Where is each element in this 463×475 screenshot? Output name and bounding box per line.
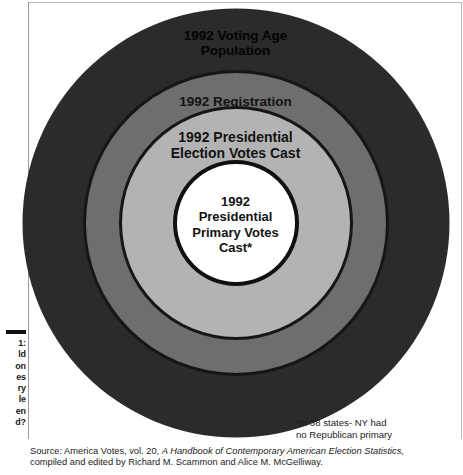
frame-rule-right <box>461 2 462 439</box>
ring-label-presidential-election-votes-cast-line-1: 1992 Presidential <box>178 129 292 145</box>
source-title: A Handbook of Contemporary American Elec… <box>162 446 404 456</box>
footnote: *in 38 states- NY had no Republican prim… <box>296 417 456 440</box>
source-prefix: Source: America Votes, vol. 20, <box>30 446 162 456</box>
ring-label-presidential-primary-votes-cast-line-4: Cast* <box>219 240 252 255</box>
footnote-line-2: no Republican primary <box>296 429 456 441</box>
ring-label-presidential-election-votes-cast-line-2: Election Votes Cast <box>171 145 301 161</box>
ring-label-voting-age-population-line-1: 1992 Voting Age <box>184 28 288 43</box>
figure-page: 1: ld on es ry le en d? 1992 Voting Age … <box>0 0 463 475</box>
ring-label-presidential-election-votes-cast: 1992 Presidential Election Votes Cast <box>22 130 449 162</box>
ring-label-presidential-primary-votes-cast-line-3: Primary Votes <box>192 225 278 240</box>
source-line-2: compiled and edited by Richard M. Scammo… <box>30 457 460 468</box>
ring-label-voting-age-population-line-2: Population <box>201 43 271 58</box>
ring-label-registration: 1992 Registration <box>22 94 449 109</box>
ring-label-presidential-primary-votes-cast-line-1: 1992 <box>221 194 250 209</box>
ring-label-presidential-primary-votes-cast: 1992 Presidential Primary Votes Cast* <box>22 194 449 255</box>
source-line-1: Source: America Votes, vol. 20, A Handbo… <box>30 446 460 457</box>
ring-label-voting-age-population: 1992 Voting Age Population <box>22 28 449 59</box>
ring-label-presidential-primary-votes-cast-line-2: Presidential <box>199 209 273 224</box>
source-attribution: Source: America Votes, vol. 20, A Handbo… <box>30 446 460 469</box>
ring-label-registration-line-1: 1992 Registration <box>179 94 292 109</box>
frame-rule-top <box>28 2 462 3</box>
footnote-line-1: *in 38 states- NY had <box>296 417 456 429</box>
concentric-circle-diagram: 1992 Voting Age Population 1992 Registra… <box>22 8 449 437</box>
